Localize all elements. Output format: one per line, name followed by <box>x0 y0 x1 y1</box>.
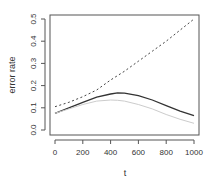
x-tick-label: 600 <box>132 148 146 157</box>
x-tick-label: 200 <box>76 148 90 157</box>
series-solid <box>55 93 194 116</box>
series-light-gray <box>55 100 194 123</box>
x-tick-label: 800 <box>160 148 174 157</box>
x-tick-label: 0 <box>53 148 58 157</box>
y-tick-label: 0.1 <box>29 102 38 114</box>
y-tick-label: 0.2 <box>29 79 38 91</box>
series-layer <box>55 19 194 123</box>
x-tick-label: 400 <box>104 148 118 157</box>
x-axis-label: t <box>124 168 127 178</box>
plot-frame <box>50 15 199 135</box>
y-tick-label: 0.0 <box>29 124 38 136</box>
y-tick-label: 0.4 <box>29 35 38 47</box>
x-tick-label: 1000 <box>185 148 203 157</box>
y-tick-label: 0.5 <box>29 13 38 25</box>
y-axis-label: error rate <box>7 56 17 93</box>
line-chart: 0.00.10.20.30.40.5 02004006008001000 err… <box>0 0 213 185</box>
y-axis: 0.00.10.20.30.40.5 <box>29 13 45 136</box>
x-axis: 02004006008001000 <box>53 140 204 157</box>
y-tick-label: 0.3 <box>29 57 38 69</box>
